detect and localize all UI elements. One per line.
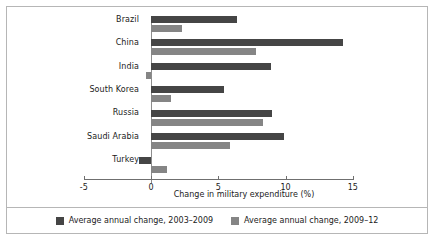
x-tick-4: [353, 176, 354, 180]
bar-china-series-1: [151, 48, 256, 55]
legend-label-series-1: Average annual change, 2009–12: [244, 216, 378, 225]
bar-south-korea-series-1: [151, 95, 171, 102]
bar-india-series-0: [151, 63, 271, 70]
bar-brazil-series-1: [151, 25, 182, 32]
legend-swatch-icon-series-1: [231, 217, 239, 225]
bar-russia-series-1: [151, 119, 263, 126]
legend-swatch-icon-series-0: [56, 217, 64, 225]
bar-saudi-arabia-series-0: [151, 133, 284, 140]
x-axis-title: Change in military expenditure (%): [7, 190, 427, 199]
bar-saudi-arabia-series-1: [151, 142, 230, 149]
chart-figure: BrazilChinaIndiaSouth KoreaRussiaSaudi A…: [6, 6, 428, 234]
bar-china-series-0: [151, 39, 343, 46]
plot-area: BrazilChinaIndiaSouth KoreaRussiaSaudi A…: [7, 7, 427, 201]
bar-turkey-series-1: [151, 166, 167, 173]
x-tick-3: [286, 176, 287, 180]
legend-item-series-0: Average annual change, 2003–2009: [56, 216, 213, 225]
bar-india-series-1: [146, 72, 151, 79]
bar-russia-series-0: [151, 110, 272, 117]
x-tick-1: [151, 176, 152, 180]
x-axis: -5051015: [7, 179, 427, 180]
x-tick-0: [84, 176, 85, 180]
bar-south-korea-series-0: [151, 86, 224, 93]
chart-legend: Average annual change, 2003–2009 Average…: [7, 208, 427, 233]
bar-brazil-series-0: [151, 16, 237, 23]
legend-label-series-0: Average annual change, 2003–2009: [69, 216, 213, 225]
x-tick-2: [218, 176, 219, 180]
x-axis-title-text: Change in military expenditure (%): [174, 190, 315, 199]
bars-layer: [7, 13, 427, 177]
bar-turkey-series-0: [139, 157, 151, 164]
legend-item-series-1: Average annual change, 2009–12: [231, 216, 378, 225]
